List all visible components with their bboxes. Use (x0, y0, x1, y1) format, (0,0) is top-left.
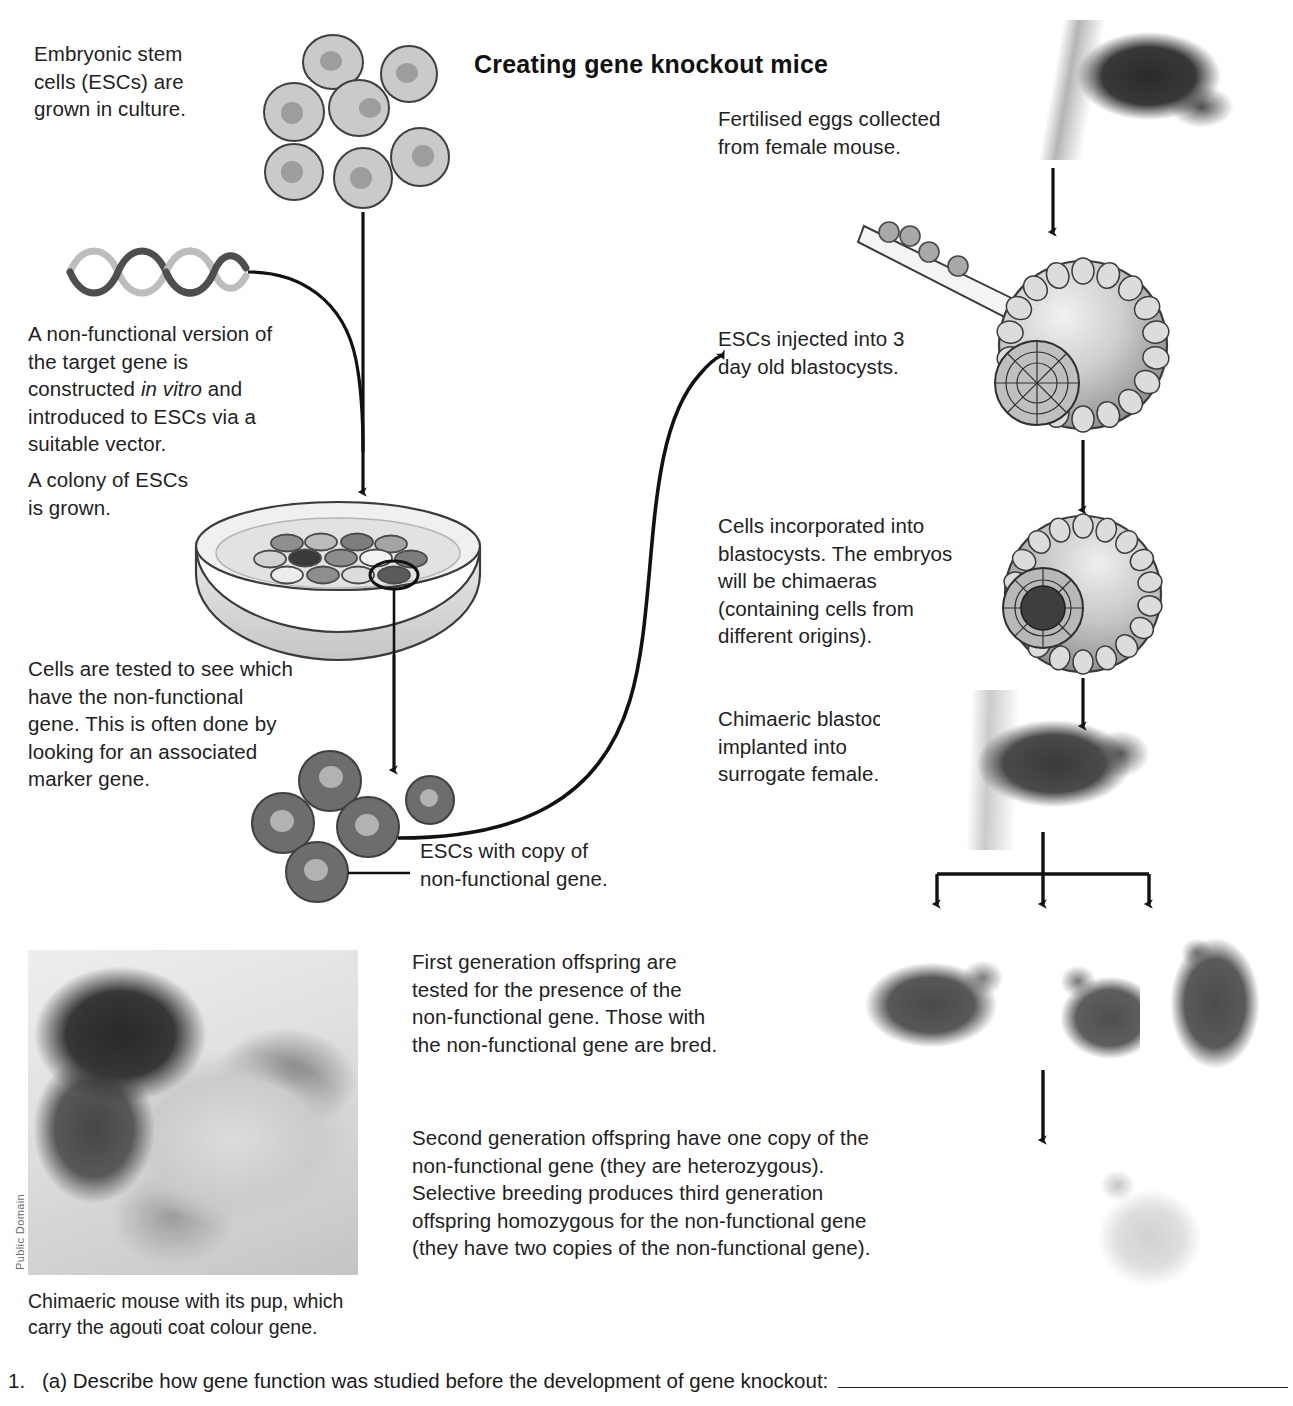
petri-dish (196, 502, 480, 660)
photo-credit: Public Domain (14, 1194, 26, 1270)
label-firstgen-line-4: the non-functional gene are bred. (412, 1031, 832, 1059)
page-title: Creating gene knockout mice (474, 50, 828, 79)
photo-surrogate-mouse (880, 690, 1180, 850)
label-nonfunctional-gene: A non-functional version of the target g… (28, 320, 328, 458)
label-tested-line-1: Cells are tested to see which (28, 655, 368, 683)
label-colony-line-2: is grown. (28, 494, 328, 522)
label-first-generation: First generation offspring are tested fo… (412, 948, 832, 1058)
label-escs-copy-line-1: ESCs with copy of (420, 837, 720, 865)
label-injected-line-1: ESCs injected into 3 (718, 325, 1018, 353)
label-esc-culture-line-1: Embryonic stem (34, 40, 284, 68)
question-number: 1. (8, 1369, 42, 1393)
label-firstgen-line-2: tested for the presence of the (412, 976, 832, 1004)
label-secondgen-line-5: (they have two copies of the non-functio… (412, 1234, 972, 1262)
label-esc-culture: Embryonic stem cells (ESCs) are grown in… (34, 40, 284, 123)
selected-colony-highlight (370, 561, 418, 589)
photo-caption-line-1: Chimaeric mouse with its pup, which (28, 1288, 428, 1314)
label-nfg-constructed: constructed (28, 377, 141, 400)
label-secondgen-line-2: non-functional gene (they are heterozygo… (412, 1152, 972, 1180)
worksheet-page: Creating gene knockout mice Embryonic st… (0, 0, 1293, 1406)
label-secondgen-line-3: Selective breeding produces third genera… (412, 1179, 972, 1207)
label-firstgen-line-3: non-functional gene. Those with (412, 1003, 832, 1031)
label-tested-line-2: have the non-functional (28, 683, 368, 711)
photo-caption-line-2: carry the agouti coat colour gene. (28, 1314, 428, 1340)
label-secondgen-line-1: Second generation offspring have one cop… (412, 1124, 972, 1152)
photo-knockout-mouse (1060, 1140, 1240, 1315)
label-firstgen-line-1: First generation offspring are (412, 948, 832, 976)
dna-helix-icon (70, 251, 246, 293)
label-secondgen-line-4: offspring homozygous for the non-functio… (412, 1207, 972, 1235)
label-colony-grown: A colony of ESCs is grown. (28, 466, 328, 521)
question-text: (a) Describe how gene function was studi… (42, 1369, 828, 1393)
label-nfg-line-2: the target gene is (28, 348, 328, 376)
label-nfg-and: and (202, 377, 242, 400)
label-fertilised-eggs: Fertilised eggs collected from female mo… (718, 105, 1028, 160)
label-escs-copy-line-2: non-functional gene. (420, 865, 720, 893)
label-incorp-line-2: blastocysts. The embryos (718, 540, 1038, 568)
blastocyst-injected (995, 258, 1171, 432)
arrow-escs-to-blastocyst-step (398, 355, 722, 838)
label-esc-culture-line-2: cells (ESCs) are (34, 68, 284, 96)
photo-female-mouse (1000, 20, 1240, 160)
photo-offspring-mouse-3 (1140, 915, 1290, 1125)
label-nfg-invitro: in vitro (141, 377, 202, 400)
photo-chimaeric-mouse-with-pup (28, 950, 358, 1275)
question-1: 1. (a) Describe how gene function was st… (8, 1369, 1288, 1393)
label-incorp-line-1: Cells incorporated into (718, 512, 1038, 540)
esc-culture-cluster (264, 35, 449, 208)
photo-offspring-mouse-1 (828, 930, 1043, 1080)
label-incorp-line-4: (containing cells from (718, 595, 1038, 623)
label-nfg-line-6: suitable vector. (28, 430, 328, 458)
label-escs-with-copy: ESCs with copy of non-functional gene. (420, 837, 720, 892)
answer-blank-line[interactable] (838, 1387, 1288, 1388)
label-cells-incorporated: Cells incorporated into blastocysts. The… (718, 512, 1038, 650)
label-second-generation: Second generation offspring have one cop… (412, 1124, 972, 1262)
label-tested-line-3: gene. This is often done by (28, 710, 368, 738)
label-colony-line-1: A colony of ESCs (28, 466, 328, 494)
label-tested-line-5: marker gene. (28, 765, 368, 793)
label-cells-tested: Cells are tested to see which have the n… (28, 655, 368, 793)
label-nfg-line-3: constructed in vitro and (28, 375, 328, 403)
label-escs-injected: ESCs injected into 3 day old blastocysts… (718, 325, 1018, 380)
label-esc-culture-line-3: grown in culture. (34, 95, 284, 123)
label-nfg-line-5: introduced to ESCs via a (28, 403, 328, 431)
label-tested-line-4: looking for an associated (28, 738, 368, 766)
label-nfg-line-1: A non-functional version of (28, 320, 328, 348)
label-eggs-line-2: from female mouse. (718, 133, 1028, 161)
label-eggs-line-1: Fertilised eggs collected (718, 105, 1028, 133)
label-incorp-line-5: different origins). (718, 622, 1038, 650)
label-injected-line-2: day old blastocysts. (718, 353, 1018, 381)
photo-caption: Chimaeric mouse with its pup, which carr… (28, 1288, 428, 1340)
label-incorp-line-3: will be chimaeras (718, 567, 1038, 595)
injection-pipette (858, 222, 1040, 328)
